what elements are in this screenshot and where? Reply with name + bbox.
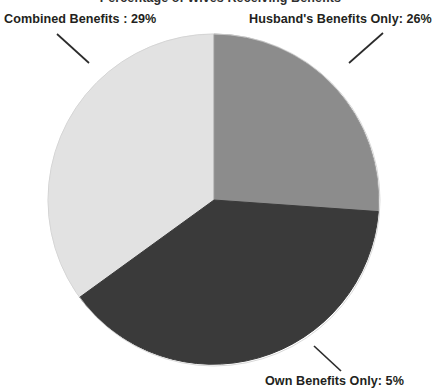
pie-slice-husbands-benefits-only[interactable] xyxy=(214,34,379,212)
leader-line-combined-benefits xyxy=(57,34,89,63)
leader-line-husbands-benefits-only xyxy=(349,33,383,63)
pie-chart xyxy=(0,0,441,392)
pie-label-combined-benefits: Combined Benefits : 29% xyxy=(4,12,156,27)
pie-label-own-benefits-only: Own Benefits Only: 5% xyxy=(265,374,404,389)
pie-label-husbands-benefits-only: Husband's Benefits Only: 26% xyxy=(249,12,432,27)
leader-line-own-benefits-only xyxy=(314,346,341,371)
pie-chart-page: Percentage of Wives Receiving Benefits C… xyxy=(0,0,441,392)
